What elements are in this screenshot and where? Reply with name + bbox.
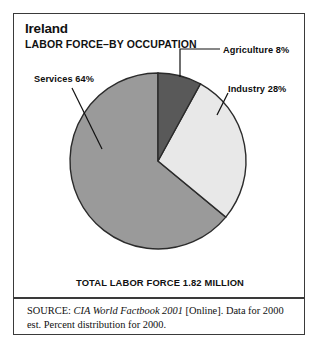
source-divider — [14, 297, 305, 299]
pie-label-industry: Industry 28% — [228, 84, 286, 94]
figure-panel: Ireland LABOR FORCE–BY OCCUPATION Agricu… — [13, 13, 305, 335]
source-publication: CIA World Factbook 2001 — [74, 305, 183, 316]
pie-chart: Agriculture 8% Industry 28% Services 64% — [14, 14, 305, 297]
pie-chart-svg — [14, 14, 305, 297]
pie-label-services: Services 64% — [34, 74, 94, 84]
total-labor-force-caption: TOTAL LABOR FORCE 1.82 MILLION — [14, 277, 305, 288]
pie-label-agriculture: Agriculture 8% — [223, 45, 289, 55]
source-note: SOURCE: CIA World Factbook 2001 [Online]… — [27, 304, 293, 332]
source-prefix: SOURCE: — [27, 305, 71, 316]
leader-line-agriculture — [180, 49, 220, 77]
